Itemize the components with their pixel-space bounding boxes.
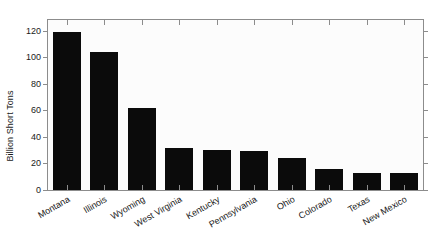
bar-chart-figure: Billion Short Tons 020406080100120 Monta… bbox=[0, 0, 440, 252]
y-axis-tick-mirror bbox=[423, 110, 428, 111]
x-axis-tick-bottom bbox=[217, 185, 218, 190]
bar bbox=[128, 108, 156, 190]
y-axis-tick-mirror bbox=[423, 84, 428, 85]
plot-area: 020406080100120 bbox=[47, 19, 424, 191]
x-axis-tick-bottom bbox=[254, 185, 255, 190]
y-axis-tick-label: 80 bbox=[31, 79, 41, 88]
x-axis-tick-bottom bbox=[104, 185, 105, 190]
y-axis-tick-label: 60 bbox=[31, 106, 41, 115]
y-axis-tick-label: 120 bbox=[26, 26, 41, 35]
x-axis-tick-top bbox=[179, 20, 180, 25]
y-axis-tick-mirror bbox=[423, 31, 428, 32]
x-axis-tick-top bbox=[404, 20, 405, 25]
x-axis-tick-top bbox=[142, 20, 143, 25]
x-axis-tick-top bbox=[104, 20, 105, 25]
y-axis-title: Billion Short Tons bbox=[0, 0, 20, 252]
x-axis-tick-top bbox=[217, 20, 218, 25]
y-axis-tick-label: 20 bbox=[31, 159, 41, 168]
x-axis-tick-bottom bbox=[292, 185, 293, 190]
y-axis-tick bbox=[43, 84, 48, 85]
x-axis-tick-top bbox=[367, 20, 368, 25]
x-axis-tick-bottom bbox=[179, 185, 180, 190]
y-axis-tick bbox=[43, 163, 48, 164]
y-axis-tick-label: 40 bbox=[31, 132, 41, 141]
y-axis-tick-mirror bbox=[423, 137, 428, 138]
x-axis-tick-bottom bbox=[329, 185, 330, 190]
x-axis-tick-bottom bbox=[404, 185, 405, 190]
x-axis-tick-top bbox=[254, 20, 255, 25]
x-axis-tick-top bbox=[329, 20, 330, 25]
x-axis-tick-bottom bbox=[367, 185, 368, 190]
y-axis-tick bbox=[43, 110, 48, 111]
y-axis-tick-mirror bbox=[423, 57, 428, 58]
y-axis-tick-mirror bbox=[423, 163, 428, 164]
bar bbox=[53, 32, 81, 190]
y-axis-tick-label: 100 bbox=[26, 53, 41, 62]
y-axis-tick bbox=[43, 57, 48, 58]
x-axis-tick-top bbox=[67, 20, 68, 25]
y-axis-tick-label: 0 bbox=[36, 186, 41, 195]
x-axis-tick-labels: MontanaIllinoisWyomingWest VirginiaKentu… bbox=[47, 191, 424, 252]
y-axis-tick bbox=[43, 31, 48, 32]
bar bbox=[90, 52, 118, 190]
bar bbox=[165, 148, 193, 191]
x-axis-tick-bottom bbox=[142, 185, 143, 190]
x-axis-tick-bottom bbox=[67, 185, 68, 190]
x-axis-tick-top bbox=[292, 20, 293, 25]
y-axis-tick bbox=[43, 137, 48, 138]
